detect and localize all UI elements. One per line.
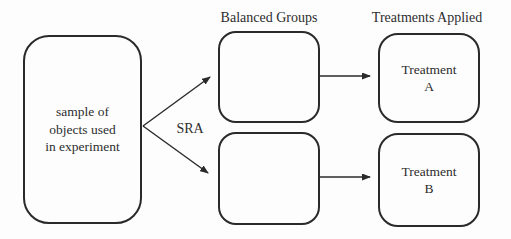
- treatment-a-node: Treatment A: [378, 33, 480, 123]
- sample-node: sample of objects used in experiment: [23, 35, 142, 224]
- arrow-sample-to-group-top: [143, 77, 210, 126]
- sample-node-label: sample of objects used in experiment: [45, 103, 120, 156]
- treatment-b-node: Treatment B: [378, 133, 480, 227]
- sra-edge-label: SRA: [169, 120, 211, 137]
- balanced-group-top-node: [218, 31, 320, 123]
- treatments-applied-column-label: Treatments Applied: [364, 10, 490, 26]
- experiment-design-diagram: Balanced Groups Treatments Applied sampl…: [0, 0, 511, 239]
- balanced-group-bottom-node: [218, 132, 320, 225]
- balanced-groups-column-label: Balanced Groups: [213, 10, 325, 26]
- treatment-b-label: Treatment B: [402, 163, 457, 198]
- treatment-a-label: Treatment A: [402, 61, 457, 96]
